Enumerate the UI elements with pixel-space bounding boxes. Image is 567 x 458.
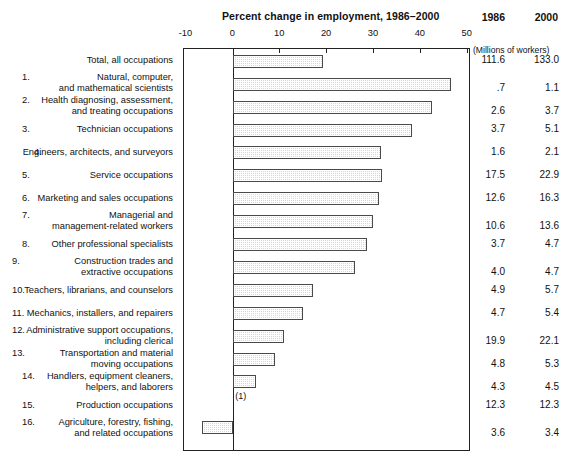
x-tick-mark <box>467 48 468 53</box>
value-2000: 2.1 <box>517 146 559 157</box>
category-number: 4. <box>34 147 42 158</box>
x-tick-mark <box>279 48 280 53</box>
category-label: Technician occupations <box>77 124 173 135</box>
bar <box>233 353 275 366</box>
bar <box>233 78 451 91</box>
x-tick-label: 0 <box>230 28 235 38</box>
category-number: 14. <box>22 371 35 382</box>
value-1986: 4.0 <box>463 266 505 277</box>
category-label: Agriculture, forestry, fishing, and rela… <box>58 417 173 438</box>
x-tick-mark <box>420 48 421 53</box>
category-label: Production occupations <box>76 400 173 411</box>
value-1986: 4.3 <box>463 381 505 392</box>
bar <box>202 421 233 434</box>
category-label: Health diagnosing, assessment, and treat… <box>41 95 173 116</box>
category-label: Managerial and management-related worker… <box>52 210 173 231</box>
category-label: Service occupations <box>90 170 173 181</box>
category-number: 2. <box>22 95 30 106</box>
category-number: 12. <box>12 325 25 336</box>
value-2000: 5.4 <box>517 307 559 318</box>
value-2000: 13.6 <box>517 220 559 231</box>
bar <box>233 169 382 182</box>
value-2000: 22.9 <box>517 169 559 180</box>
value-1986: 19.9 <box>463 335 505 346</box>
value-2000: 5.7 <box>517 284 559 295</box>
value-1986: 4.9 <box>463 284 505 295</box>
category-label: Handlers, equipment cleaners, helpers, a… <box>47 371 173 392</box>
category-label: Teachers, librarians, and counselors <box>24 285 173 296</box>
bar <box>233 146 381 159</box>
x-tick-label: 50 <box>462 28 472 38</box>
category-number: 11. <box>12 308 24 319</box>
category-number: 15. <box>22 400 35 411</box>
column-header-2000: 2000 <box>518 11 558 23</box>
value-1986: 12.3 <box>463 399 505 410</box>
category-number: 10. <box>12 285 25 296</box>
bar <box>233 215 373 228</box>
bar <box>233 101 431 114</box>
value-1986: 1.6 <box>463 146 505 157</box>
category-number: 16. <box>22 417 35 428</box>
bar <box>233 192 378 205</box>
bar <box>233 238 367 251</box>
category-number: 8. <box>22 239 30 250</box>
category-number: 3. <box>22 124 30 135</box>
category-label: Mechanics, installers, and repairers <box>27 308 173 319</box>
value-2000: 4.7 <box>517 266 559 277</box>
bar <box>233 307 303 320</box>
value-2000: 1.1 <box>517 82 559 93</box>
x-tick-mark <box>326 48 327 53</box>
category-label: Administrative support occupations, incl… <box>26 325 173 346</box>
category-label: Other professional specialists <box>52 239 173 250</box>
x-tick-label: 30 <box>368 28 378 38</box>
bar <box>233 375 256 388</box>
value-1986: 2.6 <box>463 105 505 116</box>
category-number: 13. <box>12 348 25 359</box>
category-number: 9. <box>12 256 20 267</box>
category-label: Marketing and sales occupations <box>38 193 173 204</box>
x-tick-label: 10 <box>274 28 284 38</box>
category-number: 6. <box>22 193 30 204</box>
category-label: Natural, computer, and mathematical scie… <box>59 72 173 93</box>
value-2000: 5.3 <box>517 358 559 369</box>
value-2000: 133.0 <box>517 54 559 65</box>
category-label-column: Total, all occupationsNatural, computer,… <box>0 0 181 458</box>
value-1986: 111.6 <box>463 54 505 65</box>
category-label: Total, all occupations <box>87 55 173 66</box>
bar <box>233 124 412 137</box>
chart-figure: Percent change in employment, 1986–2000 … <box>0 0 567 458</box>
value-2000: 4.5 <box>517 381 559 392</box>
value-2000: 4.7 <box>517 238 559 249</box>
value-1986: 3.6 <box>463 427 505 438</box>
value-1986: 12.6 <box>463 192 505 203</box>
bar <box>233 330 284 343</box>
column-header-1986: 1986 <box>465 11 505 23</box>
value-2000: 16.3 <box>517 192 559 203</box>
bar <box>233 55 323 68</box>
x-tick-label: 40 <box>415 28 425 38</box>
category-label: Construction trades and extractive occup… <box>74 256 173 277</box>
x-tick-label: 20 <box>321 28 331 38</box>
value-1986: 3.7 <box>463 123 505 134</box>
value-2000: 3.7 <box>517 105 559 116</box>
value-1986: .7 <box>463 82 505 93</box>
value-2000: 22.1 <box>517 335 559 346</box>
value-2000: 3.4 <box>517 427 559 438</box>
x-tick-mark <box>373 48 374 53</box>
chart-title: Percent change in employment, 1986–2000 <box>222 10 440 22</box>
footnote-marker: (1) <box>235 391 246 401</box>
bar <box>233 261 355 274</box>
category-number: 7. <box>22 210 30 221</box>
bar <box>233 284 313 297</box>
plot-area <box>183 48 470 451</box>
value-1986: 17.5 <box>463 169 505 180</box>
category-label: Transportation and material moving occup… <box>60 348 173 369</box>
value-1986: 3.7 <box>463 238 505 249</box>
category-number: 5. <box>22 170 30 181</box>
value-1986: 4.7 <box>463 307 505 318</box>
value-1986: 10.6 <box>463 220 505 231</box>
category-label: Engineers, architects, and surveyors <box>23 147 173 158</box>
value-2000: 5.1 <box>517 123 559 134</box>
value-2000: 12.3 <box>517 399 559 410</box>
category-number: 1. <box>22 72 30 83</box>
